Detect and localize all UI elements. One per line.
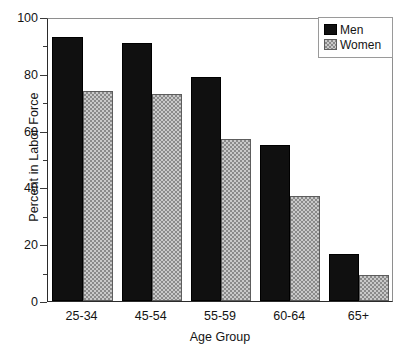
- y-tick-label: 20: [6, 239, 38, 252]
- legend-label: Men: [340, 24, 363, 36]
- legend-swatch-women: [324, 39, 337, 50]
- y-tick-mark: [40, 75, 47, 76]
- bar-women-25-34: [83, 91, 113, 301]
- bar-men-45-54: [122, 43, 152, 301]
- bar-men-65+: [329, 254, 359, 301]
- chart-legend: MenWomen: [318, 17, 393, 58]
- bar-men-25-34: [52, 37, 82, 301]
- y-tick-mark: [40, 302, 47, 303]
- y-tick-mark: [40, 132, 47, 133]
- x-axis-title: Age Group: [47, 330, 393, 344]
- y-tick-mark: [40, 245, 47, 246]
- legend-label: Women: [340, 39, 381, 51]
- y-tick-mark: [40, 188, 47, 189]
- x-tick-label: 60-64: [255, 310, 324, 323]
- plot-area: [47, 18, 393, 302]
- bar-women-55-59: [221, 139, 251, 301]
- bar-women-60-64: [290, 196, 320, 301]
- legend-swatch-men: [324, 24, 337, 35]
- bar-men-55-59: [191, 77, 221, 301]
- legend-item-women: Women: [324, 37, 388, 52]
- bar-women-45-54: [152, 94, 182, 301]
- bars-layer: [48, 19, 392, 301]
- x-tick-label: 45-54: [116, 310, 185, 323]
- bar-men-60-64: [260, 145, 290, 301]
- y-tick-mark: [40, 18, 47, 19]
- x-tick-label: 65+: [324, 310, 393, 323]
- x-tick-label: 25-34: [47, 310, 116, 323]
- y-tick-label: 40: [6, 182, 38, 195]
- y-tick-label: 0: [6, 296, 38, 309]
- y-tick-label: 80: [6, 69, 38, 82]
- x-tick-label: 55-59: [185, 310, 254, 323]
- y-tick-label: 60: [6, 126, 38, 139]
- bar-women-65+: [359, 275, 389, 301]
- bar-chart: Percent in Labor Force 020406080100 25-3…: [0, 0, 408, 352]
- y-tick-label: 100: [6, 12, 38, 25]
- legend-item-men: Men: [324, 22, 388, 37]
